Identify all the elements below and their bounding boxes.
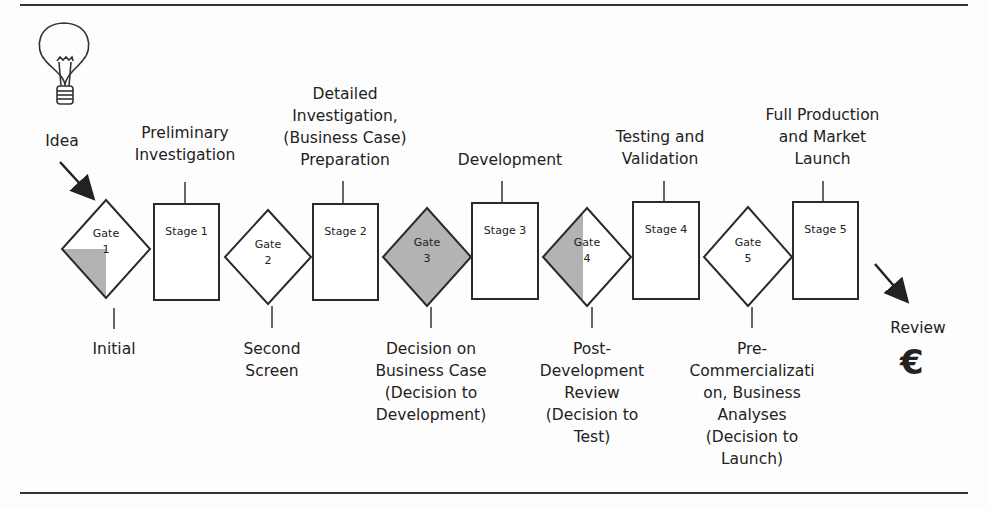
stage-1-box: Stage 1 bbox=[153, 203, 220, 301]
gate-2-description: Second Screen bbox=[222, 338, 322, 382]
lightbulb-icon bbox=[39, 23, 88, 104]
gate-3-description: Decision on Business Case (Decision to D… bbox=[356, 338, 506, 426]
gate-5-label: Gate 5 bbox=[723, 235, 773, 267]
stage-5-description: Full Production and Market Launch bbox=[740, 104, 905, 170]
gate-3-label: Gate 3 bbox=[402, 235, 452, 267]
gate-4-label: Gate 4 bbox=[562, 235, 612, 267]
stage-4-description: Testing and Validation bbox=[590, 126, 730, 170]
stage-4-label: Stage 4 bbox=[634, 223, 698, 236]
euro-icon: € bbox=[900, 342, 924, 382]
stage-1-label: Stage 1 bbox=[155, 225, 218, 238]
stage-3-label: Stage 3 bbox=[473, 224, 537, 237]
stage-3-description: Development bbox=[440, 149, 580, 171]
stage-2-box: Stage 2 bbox=[312, 203, 379, 301]
gate-2-label: Gate 2 bbox=[243, 237, 293, 269]
gate-1-label: Gate 1 bbox=[81, 226, 131, 258]
stage-3-box: Stage 3 bbox=[471, 202, 539, 300]
review-label: Review bbox=[878, 317, 958, 339]
stage-5-label: Stage 5 bbox=[794, 223, 857, 236]
gate-4-description: Post- Development Review (Decision to Te… bbox=[527, 338, 657, 448]
gate-5-description: Pre- Commercializati on, Business Analys… bbox=[682, 338, 822, 470]
gate-1-description: Initial bbox=[64, 338, 164, 360]
review-arrow bbox=[875, 264, 906, 300]
idea-label: Idea bbox=[32, 130, 92, 152]
idea-arrow bbox=[60, 162, 92, 197]
stage-5-box: Stage 5 bbox=[792, 201, 859, 300]
stage-2-label: Stage 2 bbox=[314, 225, 377, 238]
stage-1-description: Preliminary Investigation bbox=[110, 122, 260, 166]
stage-2-description: Detailed Investigation, (Business Case) … bbox=[265, 83, 425, 171]
stage-4-box: Stage 4 bbox=[632, 201, 700, 300]
